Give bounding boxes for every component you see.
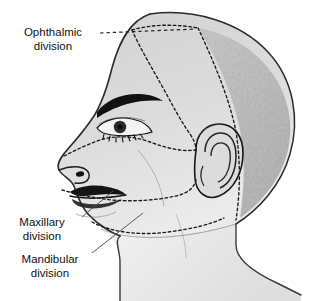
label-maxillary-line1: Maxillary — [19, 216, 65, 228]
head-profile-diagram: Ophthalmic division Maxillary division M… — [0, 0, 323, 301]
label-mandibular-line2: division — [31, 267, 69, 279]
label-ophthalmic-line1: Ophthalmic — [24, 26, 82, 38]
label-maxillary-line2: division — [23, 230, 61, 242]
label-ophthalmic-line2: division — [34, 40, 72, 52]
label-mandibular-line1: Mandibular — [22, 253, 79, 265]
head-silhouette — [58, 13, 320, 301]
pupil — [117, 124, 122, 129]
trigeminal-divisions-figure: Ophthalmic division Maxillary division M… — [0, 0, 323, 301]
